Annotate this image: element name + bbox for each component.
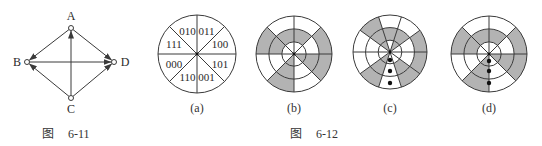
sector-code-110: 110 — [179, 71, 196, 83]
node-A — [69, 26, 74, 31]
caption-prefix: 图 — [290, 124, 302, 142]
node-C — [69, 96, 74, 101]
sector-code-010: 010 — [179, 25, 196, 37]
sector-code-100: 100 — [212, 38, 229, 50]
disk-c-dot-2 — [388, 81, 392, 85]
edge-A-to-D — [73, 30, 112, 61]
disk-b-center — [293, 53, 296, 56]
disk-d-dot-0 — [487, 59, 491, 63]
caption-prefix: 图 — [42, 124, 54, 142]
figure-6-12-code-disks: 011100101001110000111010 — [158, 15, 527, 93]
code-disk-a: 011100101001110000111010 — [158, 15, 236, 93]
sector-code-011: 011 — [199, 25, 215, 37]
panel-label-a: (a) — [190, 101, 203, 116]
edge-A-to-B — [29, 30, 69, 61]
node-D — [112, 60, 117, 65]
panel-label-b: (b) — [287, 101, 301, 116]
node-B — [25, 60, 30, 65]
panel-label-c: (c) — [383, 101, 396, 116]
code-disk-b — [256, 16, 332, 92]
node-label-A: A — [67, 9, 76, 23]
disk-c-dot-1 — [388, 69, 392, 73]
disk-d-dot-2 — [487, 81, 491, 85]
sector-code-001: 001 — [198, 71, 215, 83]
edge-C-to-D — [73, 64, 112, 96]
panel-label-d: (d) — [482, 101, 496, 116]
node-label-C: C — [67, 102, 75, 116]
node-label-D: D — [121, 55, 130, 69]
caption-figure-6-12: 图6-12 — [290, 124, 338, 142]
figure-6-11-directed-graph: ABCD — [13, 9, 130, 116]
disk-d-dot-1 — [487, 69, 491, 73]
node-label-B: B — [13, 55, 21, 69]
disk-c-center — [389, 51, 392, 54]
code-disk-d — [451, 16, 527, 92]
disk-c-dot-0 — [388, 58, 392, 62]
caption-number: 6-11 — [68, 127, 90, 142]
sector-code-111: 111 — [166, 38, 182, 50]
code-disk-c — [353, 15, 427, 89]
sector-code-000: 000 — [166, 58, 183, 70]
disk-d-center — [488, 53, 491, 56]
disk-a-center — [196, 53, 199, 56]
caption-number: 6-12 — [316, 127, 338, 142]
caption-figure-6-11: 图6-11 — [42, 124, 90, 142]
sector-code-101: 101 — [212, 58, 229, 70]
edge-C-to-B — [29, 64, 69, 97]
